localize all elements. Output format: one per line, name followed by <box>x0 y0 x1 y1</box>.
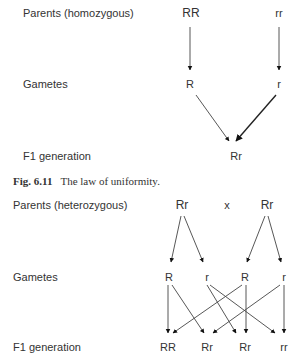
arrow-R-to-Rr <box>196 95 229 141</box>
f1-genotype: RR <box>160 342 176 353</box>
arrow-r1-to-rr <box>210 285 275 333</box>
f1-genotype: rr <box>280 342 287 353</box>
figure-caption: Fig. 6.11The law of uniformity. <box>13 175 160 187</box>
arrow-Rr1-to-R <box>171 216 181 262</box>
arrow-Rr1-to-r <box>184 216 203 262</box>
parent-genotype: rr <box>275 8 282 19</box>
caption-label: Fig. 6.11 <box>13 175 52 187</box>
gamete: r <box>205 272 209 283</box>
caption-text: The law of uniformity. <box>60 175 159 187</box>
gamete: R <box>186 79 194 90</box>
row-label-gametes: Gametes <box>13 272 58 283</box>
row-label-parents: Parents (homozygous) <box>23 8 134 19</box>
arrow-Rr2-to-r <box>268 216 281 262</box>
row-label-f1: F1 generation <box>13 342 81 353</box>
arrow-R1-to-Rr1 <box>172 285 204 333</box>
parent-genotype: RR <box>182 7 199 19</box>
arrow-r-to-Rr <box>236 95 276 141</box>
arrow-Rr2-to-R <box>247 216 265 262</box>
row-label-parents: Parents (heterozygous) <box>13 200 127 211</box>
gamete: r <box>277 79 281 90</box>
f1-genotype: Rr <box>230 151 242 162</box>
f1-genotype: Rr <box>239 342 251 353</box>
parent-genotype: Rr <box>261 199 274 211</box>
row-label-f1: F1 generation <box>23 151 91 162</box>
arrow-r2-to-Rr1 <box>213 285 280 333</box>
cross-symbol: x <box>224 200 230 211</box>
gamete: R <box>241 272 249 283</box>
parent-genotype: Rr <box>176 199 189 211</box>
row-label-gametes: Gametes <box>23 79 68 90</box>
gamete: r <box>282 272 286 283</box>
gamete: R <box>165 272 173 283</box>
f1-genotype: Rr <box>201 342 213 353</box>
